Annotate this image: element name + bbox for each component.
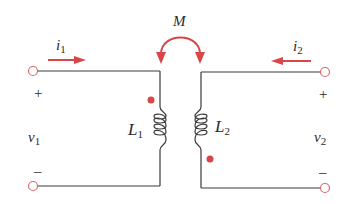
current-i1-label: i1 bbox=[56, 37, 66, 55]
current-i2-label: i2 bbox=[293, 38, 303, 56]
voltage-v2-label: v2 bbox=[314, 129, 326, 147]
v2-minus-sign: – bbox=[318, 164, 327, 180]
polarity-dot-l1-icon bbox=[148, 97, 155, 104]
terminal-1-negative bbox=[29, 182, 38, 191]
inductor-l1-label: L1 bbox=[127, 120, 143, 140]
inductor-l2-label: L2 bbox=[214, 117, 230, 137]
v1-minus-sign: – bbox=[33, 163, 42, 179]
circuit-diagram: M i1 i2 + v1 – + v2 – L1 L2 bbox=[0, 0, 349, 204]
mutual-inductance-label: M bbox=[172, 13, 187, 29]
mutual-inductance-arc-icon bbox=[156, 38, 205, 65]
v1-plus-sign: + bbox=[34, 85, 42, 101]
v2-plus-sign: + bbox=[319, 86, 327, 102]
polarity-dot-l2-icon bbox=[207, 156, 214, 163]
terminal-2-positive bbox=[321, 68, 330, 77]
terminal-1-positive bbox=[29, 67, 38, 76]
inductor-l1-coil-icon bbox=[154, 107, 166, 150]
voltage-v1-label: v1 bbox=[28, 129, 40, 147]
terminal-2-negative bbox=[321, 184, 330, 193]
inductor-l2-coil-icon bbox=[195, 107, 207, 150]
